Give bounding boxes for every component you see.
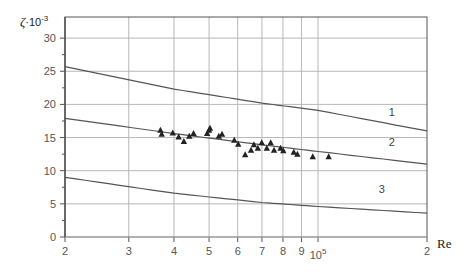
curve-label-2: 2 — [389, 136, 395, 148]
x-tick-label: 6 — [235, 245, 241, 257]
triangle-marker — [310, 153, 316, 159]
y-tick-label: 25 — [44, 65, 56, 77]
triangle-marker — [271, 147, 277, 153]
y-axis-title: ζ·10-3 — [20, 14, 49, 29]
x-tick-label: 2 — [424, 245, 430, 257]
axes — [60, 17, 427, 242]
curve-1 — [65, 67, 427, 131]
y-tick-label: 20 — [44, 98, 56, 110]
x-tick-label: 2 — [62, 245, 68, 257]
triangle-marker — [242, 151, 248, 157]
triangle-marker — [170, 129, 176, 135]
x-tick-label: 3 — [126, 245, 132, 257]
curve-label-3: 3 — [379, 183, 385, 195]
x-axis-title: Re — [437, 236, 452, 251]
y-tick-label: 0 — [50, 231, 56, 243]
y-tick-label: 30 — [44, 32, 56, 44]
x-tick-label: 8 — [280, 245, 286, 257]
x-tick-label: 4 — [171, 245, 177, 257]
y-tick-label: 5 — [50, 198, 56, 210]
x-tick-label: 105 — [310, 247, 327, 261]
curve-label-1: 1 — [389, 106, 395, 118]
y-tick-label: 10 — [44, 165, 56, 177]
x-tick-label: 7 — [259, 245, 265, 257]
grid-lines — [65, 17, 427, 237]
triangle-marker — [267, 139, 273, 145]
triangle-marker — [219, 131, 225, 137]
triangle-marker — [190, 130, 196, 136]
y-tick-label: 15 — [44, 132, 56, 144]
triangle-marker — [207, 125, 213, 131]
chart: 234567891052051015202530 123 ζ·10-3 Re — [0, 0, 468, 272]
x-tick-label: 5 — [206, 245, 212, 257]
curves — [65, 67, 427, 214]
curve-3 — [65, 177, 427, 213]
x-tick-label: 9 — [298, 245, 304, 257]
triangle-marker — [259, 139, 265, 145]
triangle-marker — [325, 153, 331, 159]
triangle-marker — [248, 147, 254, 153]
curve-labels: 123 — [379, 106, 395, 196]
triangle-marker — [181, 138, 187, 144]
triangle-marker — [157, 127, 163, 133]
